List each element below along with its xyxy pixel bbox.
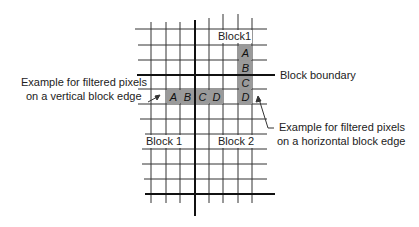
vertical-edge-caption-2: on a vertical block edge — [26, 90, 142, 103]
pixel-grid — [0, 0, 419, 227]
pixel-c-vertical: C — [239, 76, 252, 89]
horizontal-edge-caption-2: on a horizontal block edge — [277, 135, 405, 148]
block2-bottom-label: Block 2 — [217, 135, 255, 148]
block1-bottom-label: Block 1 — [145, 135, 183, 148]
horizontal-edge-caption-1: Example for filtered pixels — [279, 121, 405, 134]
block-boundary-label: Block boundary — [280, 69, 356, 82]
pixel-b-vertical: B — [239, 61, 252, 74]
pixel-b-horizontal: B — [181, 90, 194, 104]
pixel-a-horizontal: A — [167, 90, 180, 104]
block1-top-label: Block1 — [217, 30, 252, 43]
pixel-c-horizontal: C — [196, 90, 209, 104]
pixel-d-vertical: D — [239, 90, 252, 104]
pixel-d-horizontal: D — [210, 90, 223, 104]
pixel-a-vertical: A — [239, 46, 252, 60]
vertical-edge-caption-1: Example for filtered pixels — [21, 76, 147, 89]
